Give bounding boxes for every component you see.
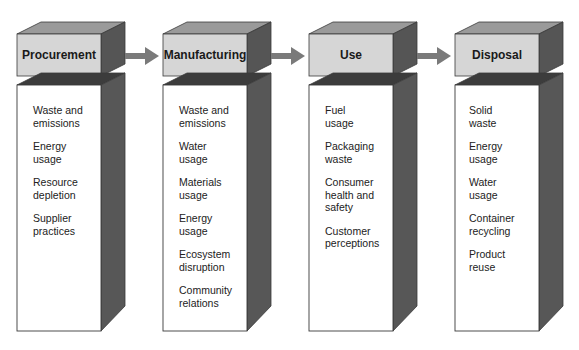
- list-item: Fuel usage: [325, 104, 403, 129]
- list-item: Waste and emissions: [179, 104, 257, 129]
- list-item: Water usage: [469, 176, 547, 201]
- list-item: Energy usage: [33, 140, 111, 165]
- stage-items: Waste and emissions Energy usage Resourc…: [33, 104, 111, 248]
- list-item: Resource depletion: [33, 176, 111, 201]
- stage-title: Manufacturing: [163, 34, 247, 76]
- list-item: Materials usage: [179, 176, 257, 201]
- list-item: Energy usage: [179, 212, 257, 237]
- stage-items: Waste and emissions Water usage Material…: [179, 104, 257, 320]
- list-item: Community relations: [179, 284, 257, 309]
- list-item: Consumer health and safety: [325, 176, 403, 214]
- list-item: Water usage: [179, 140, 257, 165]
- stage-items: Solid waste Energy usage Water usage Con…: [469, 104, 547, 284]
- stage-title: Use: [309, 34, 393, 76]
- list-item: Solid waste: [469, 104, 547, 129]
- stage-title: Procurement: [17, 34, 101, 76]
- list-item: Packaging waste: [325, 140, 403, 165]
- arrow-right-icon: [271, 47, 305, 65]
- stage-title: Disposal: [455, 34, 539, 76]
- list-item: Supplier practices: [33, 212, 111, 237]
- list-item: Ecosystem disruption: [179, 248, 257, 273]
- list-item: Energy usage: [469, 140, 547, 165]
- list-item: Customer perceptions: [325, 225, 403, 250]
- arrow-right-icon: [417, 47, 451, 65]
- list-item: Waste and emissions: [33, 104, 111, 129]
- stage-items: Fuel usage Packaging waste Consumer heal…: [325, 104, 403, 261]
- list-item: Container recycling: [469, 212, 547, 237]
- list-item: Product reuse: [469, 248, 547, 273]
- arrow-right-icon: [125, 47, 159, 65]
